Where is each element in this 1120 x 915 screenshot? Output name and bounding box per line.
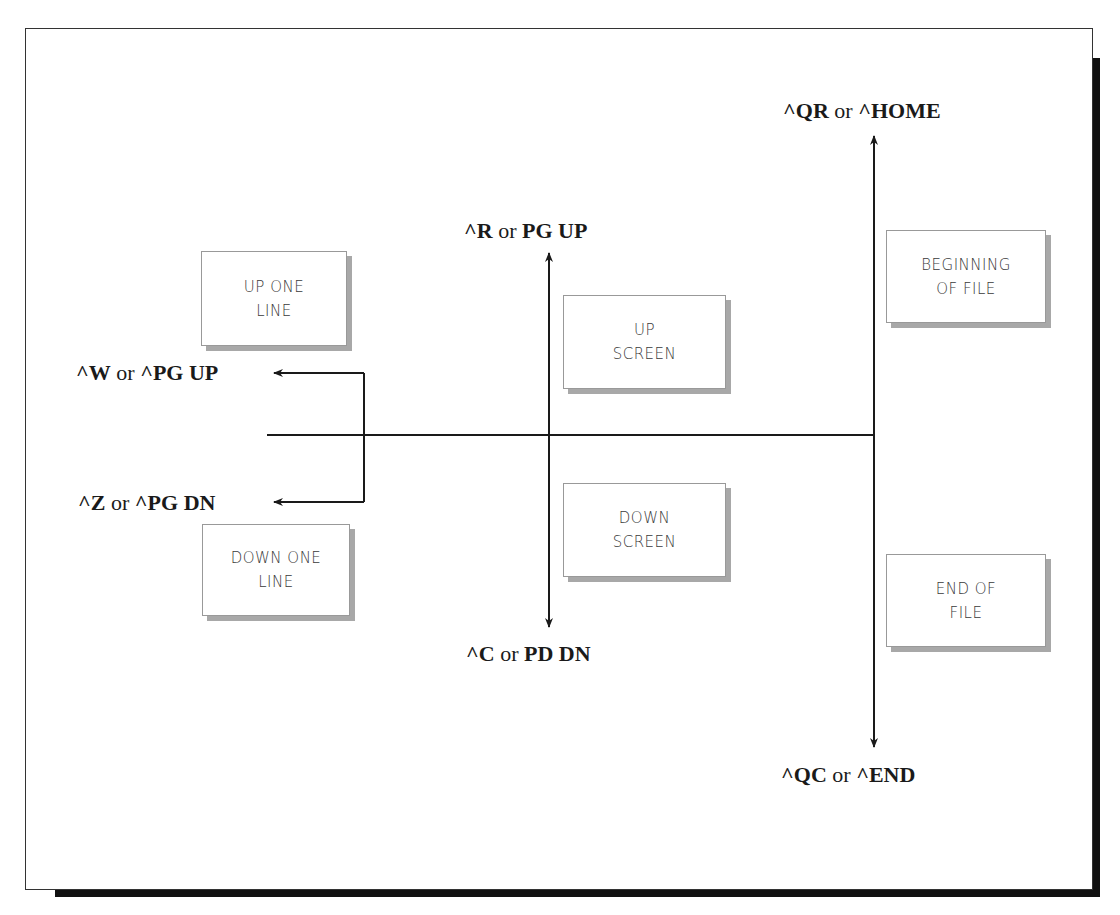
box-end-of-file-line1: END OF (936, 577, 996, 601)
box-down-screen: DOWN SCREEN (563, 483, 726, 577)
connector-lines (0, 0, 1120, 915)
label-home-keys: ^QR or ^HOME (783, 100, 941, 122)
label-page-down-keys: ^C or PD DN (466, 643, 591, 665)
box-down-one-line-line1: DOWN ONE (231, 546, 322, 570)
box-up-screen: UP SCREEN (563, 295, 726, 389)
box-down-screen-line2: SCREEN (613, 530, 677, 554)
box-up-screen-line1: UP (634, 318, 655, 342)
label-end-or: or (827, 762, 856, 787)
label-scroll-up-key1: ^W (76, 360, 111, 385)
label-end-key1: ^QC (781, 762, 827, 787)
box-up-one-line-line1: UP ONE (244, 275, 304, 299)
label-page-up-key2: PG UP (522, 218, 587, 243)
box-end-of-file-line2: FILE (950, 601, 983, 625)
label-scroll-up-keys: ^W or ^PG UP (76, 362, 218, 384)
label-home-key2: ^HOME (858, 98, 940, 123)
box-beginning-of-file-line2: OF FILE (936, 277, 996, 301)
label-scroll-down-or: or (105, 490, 134, 515)
label-page-down-key1: ^C (466, 641, 495, 666)
label-page-up-or: or (493, 218, 522, 243)
label-scroll-up-or: or (111, 360, 140, 385)
label-page-down-or: or (495, 641, 524, 666)
label-page-up-key1: ^R (464, 218, 493, 243)
label-scroll-down-keys: ^Z or ^PG DN (78, 492, 215, 514)
label-end-keys: ^QC or ^END (781, 764, 915, 786)
label-scroll-up-key2: ^PG UP (140, 360, 218, 385)
box-down-one-line: DOWN ONE LINE (202, 524, 350, 616)
label-page-up-keys: ^R or PG UP (464, 220, 587, 242)
label-home-or: or (829, 98, 858, 123)
box-down-screen-line1: DOWN (619, 506, 670, 530)
label-page-down-key2: PD DN (524, 641, 591, 666)
box-end-of-file: END OF FILE (886, 554, 1046, 647)
label-end-key2: ^END (856, 762, 915, 787)
box-beginning-of-file-line1: BEGINNING (921, 253, 1011, 277)
box-down-one-line-line2: LINE (258, 570, 293, 594)
label-scroll-down-key2: ^PG DN (135, 490, 216, 515)
label-home-key1: ^QR (783, 98, 829, 123)
box-beginning-of-file: BEGINNING OF FILE (886, 230, 1046, 323)
box-up-screen-line2: SCREEN (613, 342, 677, 366)
label-scroll-down-key1: ^Z (78, 490, 105, 515)
box-up-one-line: UP ONE LINE (201, 251, 347, 346)
box-up-one-line-line2: LINE (256, 299, 291, 323)
